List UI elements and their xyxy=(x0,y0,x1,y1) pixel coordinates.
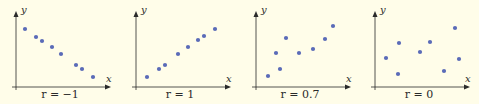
data-point xyxy=(74,63,78,67)
data-point xyxy=(457,57,461,61)
data-point xyxy=(384,56,388,60)
data-point xyxy=(91,75,95,79)
y-axis-arrow-icon xyxy=(14,11,19,17)
x-axis-label: x xyxy=(106,73,112,84)
data-point xyxy=(163,63,167,67)
x-axis-label: x xyxy=(226,73,232,84)
x-axis-label: x xyxy=(465,73,471,84)
y-axis-arrow-icon xyxy=(254,11,259,17)
data-point xyxy=(34,35,38,39)
data-point xyxy=(311,47,315,51)
data-point xyxy=(418,50,422,54)
correlation-caption: r = 0.7 xyxy=(240,88,360,101)
data-point xyxy=(40,39,44,43)
data-point xyxy=(323,37,327,41)
data-point xyxy=(145,75,149,79)
correlation-caption: r = −1 xyxy=(0,88,120,101)
y-axis-label: y xyxy=(261,4,267,15)
data-point xyxy=(196,38,200,42)
y-axis-label: y xyxy=(21,4,27,15)
x-axis-label: x xyxy=(346,73,352,84)
data-point xyxy=(284,36,288,40)
scatter-panel-r-0: y x r = 0 xyxy=(359,0,479,104)
y-axis-label: y xyxy=(141,4,147,15)
data-point xyxy=(297,51,301,55)
data-point xyxy=(186,45,190,49)
scatter-panel-r-0-7: y x r = 0.7 xyxy=(240,0,360,104)
correlation-scatter-figure: y x r = −1 y x r = 1 y x r = 0.7 y x r =… xyxy=(0,0,479,104)
y-axis-label: y xyxy=(380,4,386,15)
data-point xyxy=(274,51,278,55)
data-point xyxy=(442,69,446,73)
data-point xyxy=(278,67,282,71)
scatter-panel-r-1: y x r = 1 xyxy=(120,0,240,104)
data-point xyxy=(157,67,161,71)
scatter-panel-r-neg1: y x r = −1 xyxy=(0,0,120,104)
data-point xyxy=(453,26,457,30)
data-point xyxy=(396,72,400,76)
data-point xyxy=(213,27,217,31)
data-point xyxy=(50,45,54,49)
data-point xyxy=(331,24,335,28)
correlation-caption: r = 1 xyxy=(120,88,240,101)
data-point xyxy=(59,52,63,56)
data-point xyxy=(23,27,27,31)
y-axis-arrow-icon xyxy=(373,11,378,17)
correlation-caption: r = 0 xyxy=(359,88,479,101)
data-point xyxy=(397,41,401,45)
data-point xyxy=(202,34,206,38)
data-point xyxy=(428,40,432,44)
y-axis-arrow-icon xyxy=(134,11,139,17)
data-point xyxy=(176,52,180,56)
data-point xyxy=(266,74,270,78)
data-point xyxy=(80,67,84,71)
